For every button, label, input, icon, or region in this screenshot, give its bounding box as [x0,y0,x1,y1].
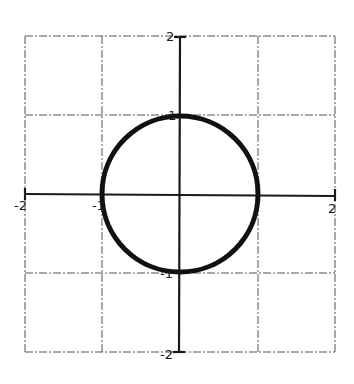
x-tick-label-neg1: -1 [92,198,105,213]
axes [25,36,335,352]
y-axis [179,36,180,352]
y-tick-label-neg1: -1 [160,266,173,281]
y-tick-label-pos1: 1 [168,108,176,123]
y-tick-label-pos2: 2 [166,29,174,44]
circle-plot: -2 -1 2 2 1 -1 -2 [0,0,354,384]
y-tick-label-neg2: -2 [160,347,173,362]
x-tick-label-neg2: -2 [14,198,27,213]
x-tick-label-pos2: 2 [328,201,336,216]
